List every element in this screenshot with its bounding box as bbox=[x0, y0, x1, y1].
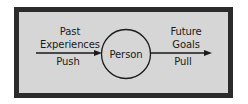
goals-label: Goals bbox=[172, 39, 199, 50]
push-label: Push bbox=[56, 56, 79, 67]
past-label: Past bbox=[60, 26, 80, 37]
experiences-label: Experiences bbox=[40, 39, 100, 50]
pull-label: Pull bbox=[174, 56, 191, 67]
future-label: Future bbox=[170, 26, 201, 37]
person-label: Person bbox=[109, 49, 142, 60]
